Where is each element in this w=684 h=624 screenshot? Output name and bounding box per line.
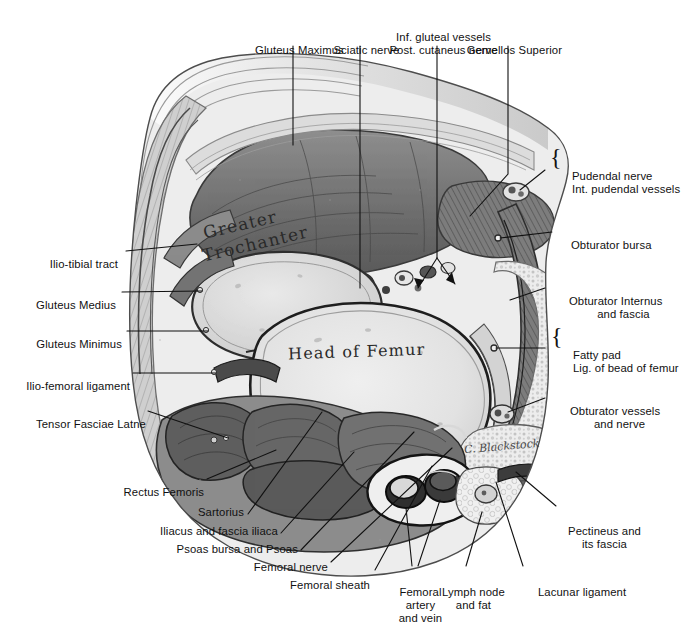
label-gluteus-medius: Gluteus Medius [12, 286, 116, 324]
label-obturator-internus-and-fascia: and fascia [556, 295, 678, 333]
label-obturator-and-nerve: and nerve [557, 405, 669, 443]
label-gemellos-superior: Gemellos Superior [440, 31, 576, 69]
label-ilio-femoral-ligament: Ilio-femoral ligament [8, 367, 130, 405]
label-rectus-femoris: Rectus Femoris [80, 473, 204, 511]
label-pectineus-its-fascia: its fascia [546, 525, 650, 563]
label-ilio-tibial-tract: Ilio-tibial tract [18, 245, 118, 283]
obturator-neurovascular [490, 405, 514, 423]
figure-canvas: Greater Trochanter Head of Femur C. Blac… [0, 0, 684, 624]
label-lacunar-ligament: Lacunar ligament [525, 573, 626, 611]
label-int-pudendal-vessels: Int. pudendal vessels [559, 170, 680, 208]
label-tensor-fasciae-latne: Tensor Fasciae Latne [14, 405, 146, 443]
label-lig-of-bead-of-femur: Lig. of bead of femur [560, 349, 679, 387]
label-obturator-bursa: Obturator bursa [558, 226, 652, 264]
label-gluteus-minimus: Gluteus Minimus [16, 325, 122, 363]
label-femoral-artery-line3: and vein [375, 599, 453, 624]
